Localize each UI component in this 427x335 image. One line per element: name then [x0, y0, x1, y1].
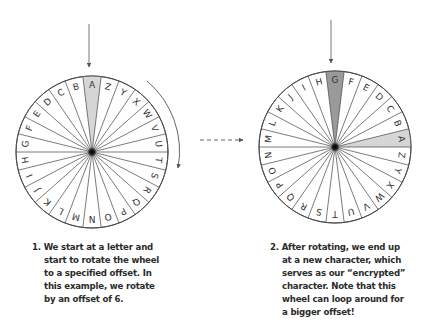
step1-line-3: to a specified offset. In — [32, 267, 159, 280]
step2-caption: 2. After rotating, we end up at a new ch… — [270, 241, 405, 319]
wheel-letter-t: T — [332, 209, 339, 219]
rotated-letter-wheel: GFEDCBAZYXWVUTSRQPONMLKJIH — [259, 20, 411, 223]
step1-caption: 1. We start at a letter and start to rot… — [32, 241, 159, 306]
start-letter-wheel: AZYXWVUTSRQPONMLKJIHGFEDCB — [16, 24, 168, 228]
wheel-letter-a: A — [89, 80, 96, 90]
step2-line-5: wheel can loop around for — [270, 293, 405, 306]
wheel-letter-g: G — [20, 140, 31, 148]
wheel-letter-g: G — [332, 75, 339, 85]
step1-line-2: start to rotate the wheel — [32, 254, 159, 267]
step2-line-6: a bigger offset! — [270, 306, 405, 319]
wheel-letter-m: M — [263, 134, 274, 143]
wheel-hub — [88, 148, 97, 157]
wheel-letter-n: N — [89, 214, 96, 224]
step1-line-4: this example, we rotate — [32, 280, 159, 293]
wheel-letter-h: H — [20, 156, 31, 164]
wheel-letter-z: Z — [396, 151, 407, 158]
step1-line-1: 1. We start at a letter and — [32, 241, 159, 254]
wheel-hub — [331, 143, 340, 152]
step2-line-3: serves as our “encrypted” — [270, 267, 405, 280]
step1-line-5: by an offset of 6. — [32, 293, 159, 306]
step2-line-2: at a new character, which — [270, 254, 405, 267]
wheel-letter-u: U — [153, 140, 164, 148]
step2-line-4: character. Note that this — [270, 280, 405, 293]
wheel-letter-n: N — [263, 151, 274, 159]
step2-line-1: 2. After rotating, we end up — [270, 241, 405, 254]
